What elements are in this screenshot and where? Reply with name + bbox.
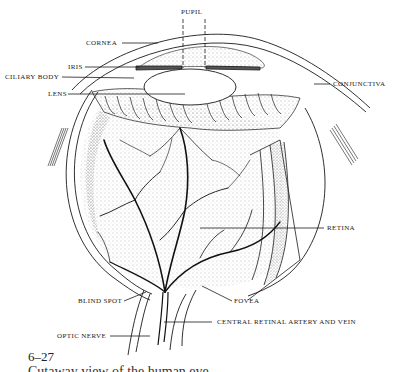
label-blind-spot: BLIND SPOT	[78, 297, 122, 305]
label-retina: RETINA	[327, 224, 355, 232]
lens	[144, 69, 236, 105]
label-central-retinal-artery-and-vein: CENTRAL RETINAL ARTERY AND VEIN	[217, 318, 356, 326]
eye-diagram: PUPIL CORNEA IRIS CILIARY BODY LENS CONJ…	[0, 0, 393, 372]
figure-number: 6–27	[28, 349, 54, 365]
retina-surface	[80, 104, 285, 288]
central-retinal-vessels	[158, 292, 168, 345]
figure-caption: Cutaway view of the human eye	[28, 364, 209, 372]
label-iris: IRIS	[68, 63, 83, 71]
label-conjunctiva: CONJUNCTIVA	[333, 80, 386, 88]
label-cornea: CORNEA	[86, 39, 117, 47]
label-lens: LENS	[48, 90, 67, 98]
label-optic-nerve: OPTIC NERVE	[57, 332, 106, 340]
eye-illustration	[0, 0, 393, 372]
label-pupil: PUPIL	[181, 8, 202, 16]
label-fovea: FOVEA	[234, 297, 259, 305]
label-ciliary-body: CILIARY BODY	[5, 73, 59, 81]
